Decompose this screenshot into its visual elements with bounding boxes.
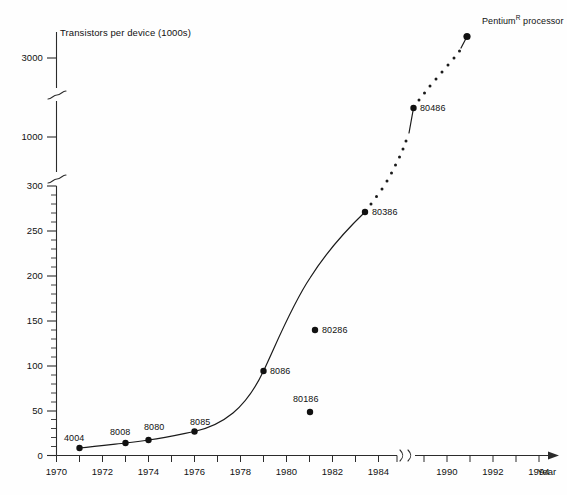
pentium-name: Pentium bbox=[482, 16, 516, 26]
data-curve-solid-upper bbox=[409, 108, 414, 133]
data-label-8086: 8086 bbox=[270, 366, 290, 376]
data-label-8085: 8085 bbox=[190, 417, 210, 427]
y-tick-label-0: 0 bbox=[0, 450, 43, 461]
x-axis-break-marks bbox=[400, 450, 411, 461]
x-tick-label-1992: 1992 bbox=[470, 466, 516, 477]
y-tick-label-50: 50 bbox=[0, 405, 43, 416]
data-point-markers bbox=[76, 33, 470, 451]
data-curve-dotted-break bbox=[370, 140, 408, 206]
data-label-80186: 80186 bbox=[293, 394, 319, 404]
y-tick-label-200: 200 bbox=[0, 270, 43, 281]
data-label-8008: 8008 bbox=[110, 427, 130, 437]
data-point-80386[interactable] bbox=[362, 209, 368, 215]
x-tick-label-1976: 1976 bbox=[172, 466, 218, 477]
x-break-icon-b bbox=[408, 450, 411, 461]
data-label-8080: 8080 bbox=[144, 422, 164, 432]
data-point-80486[interactable] bbox=[410, 105, 416, 111]
chart-canvas bbox=[0, 0, 567, 495]
y-break-upper-icon bbox=[48, 91, 66, 99]
pentium-suffix: processor bbox=[521, 16, 564, 26]
x-tick-label-1970: 1970 bbox=[34, 466, 80, 477]
data-point-8008[interactable] bbox=[122, 440, 128, 446]
data-label-pentium: PentiumR processor bbox=[482, 16, 564, 26]
y-tick-label-1000: 1000 bbox=[0, 131, 43, 142]
x-break-icon-a bbox=[400, 450, 403, 461]
x-axis-arrowhead bbox=[548, 452, 559, 460]
y-tick-label-150: 150 bbox=[0, 315, 43, 326]
data-point-4004[interactable] bbox=[76, 445, 82, 451]
data-point-80186[interactable] bbox=[307, 409, 313, 415]
data-label-80386: 80386 bbox=[372, 207, 398, 217]
transistor-growth-chart: Transistors per device (1000s) 0 50 100 … bbox=[0, 0, 567, 495]
y-axis-major-ticks bbox=[47, 58, 57, 456]
x-tick-label-1972: 1972 bbox=[80, 466, 126, 477]
data-point-8085[interactable] bbox=[191, 428, 197, 434]
data-point-8080[interactable] bbox=[145, 437, 151, 443]
y-break-lower-icon bbox=[48, 175, 66, 183]
data-point-8086[interactable] bbox=[260, 368, 266, 374]
y-tick-label-250: 250 bbox=[0, 225, 43, 236]
y-tick-label-3000: 3000 bbox=[0, 52, 43, 63]
x-tick-label-1984: 1984 bbox=[356, 466, 402, 477]
y-axis-title: Transistors per device (1000s) bbox=[60, 27, 191, 38]
y-tick-label-300: 300 bbox=[0, 180, 43, 191]
x-tick-label-1980: 1980 bbox=[264, 466, 310, 477]
data-label-4004: 4004 bbox=[64, 433, 84, 443]
x-axis-ticks bbox=[57, 456, 540, 463]
x-tick-label-1978: 1978 bbox=[218, 466, 264, 477]
x-tick-label-1982: 1982 bbox=[310, 466, 356, 477]
x-tick-label-1990: 1990 bbox=[424, 466, 470, 477]
data-label-80486: 80486 bbox=[420, 103, 446, 113]
x-axis-title: Year bbox=[537, 466, 556, 477]
data-point-80286[interactable] bbox=[312, 327, 318, 333]
data-label-80286: 80286 bbox=[322, 325, 348, 335]
y-tick-label-100: 100 bbox=[0, 360, 43, 371]
data-curve-dotted-break-upper bbox=[418, 50, 462, 102]
x-tick-label-1974: 1974 bbox=[126, 466, 172, 477]
data-point-pentium[interactable] bbox=[463, 33, 470, 40]
